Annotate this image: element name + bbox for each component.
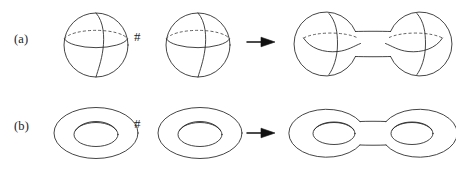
connected-sum-result-spheres	[298, 6, 448, 84]
row-label-a: (a)	[14, 32, 28, 47]
connected-sum-result-double-torus	[294, 102, 452, 164]
connected-sum-operator-b: #	[134, 116, 141, 132]
torus-left	[52, 104, 140, 162]
sphere-right	[158, 8, 238, 82]
sphere-left	[56, 8, 136, 82]
arrow-right-icon-a	[246, 35, 278, 49]
arrow-right-icon-b	[246, 126, 278, 140]
torus-right	[156, 104, 244, 162]
row-label-b: (b)	[14, 119, 29, 134]
figure-row-a: (a) #	[0, 0, 456, 90]
figure-row-b: (b) #	[0, 90, 456, 171]
connected-sum-operator-a: #	[134, 29, 141, 45]
connected-sum-figure: (a) #	[0, 0, 456, 171]
